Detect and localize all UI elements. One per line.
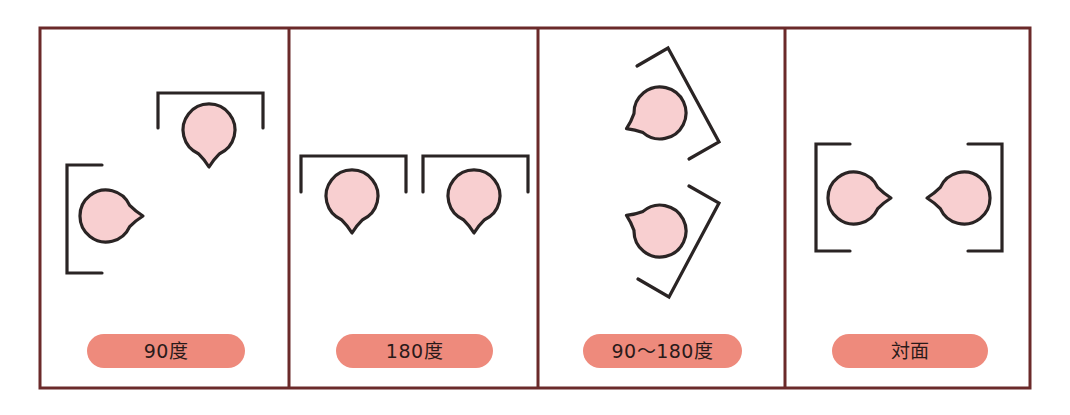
person-icon	[80, 190, 143, 242]
label-180-degrees: 180度	[336, 334, 493, 368]
label-90-degrees: 90度	[87, 334, 245, 368]
person-icon	[183, 104, 235, 167]
person-icon	[627, 205, 686, 257]
person-icon	[326, 170, 378, 233]
label-facing: 対面	[832, 334, 988, 368]
label-90-to-180-degrees: 90〜180度	[583, 334, 742, 368]
person-icon	[448, 170, 500, 233]
person-icon	[828, 172, 891, 224]
person-icon	[927, 172, 990, 224]
person-icon	[627, 87, 686, 139]
